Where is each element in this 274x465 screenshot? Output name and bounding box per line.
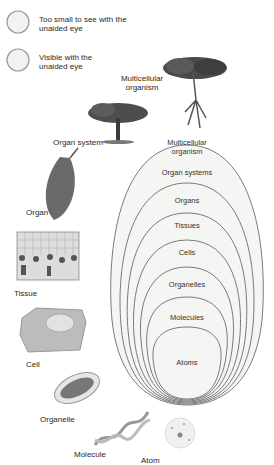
level-cells: Cells bbox=[147, 249, 227, 258]
atom-icon bbox=[165, 418, 195, 448]
tissue-icon bbox=[17, 232, 79, 280]
level-organs: Organs bbox=[147, 197, 227, 206]
label-organ-system: Organ system bbox=[53, 138, 103, 147]
legend-text-line1: Too small to see with the bbox=[39, 15, 127, 24]
label-organelle: Organelle bbox=[40, 415, 75, 424]
level-multicellular-organism: Multicellular organism bbox=[147, 139, 227, 156]
level-organelles: Organelles bbox=[147, 281, 227, 290]
label-multicellular-organism: Multicellular organism bbox=[112, 74, 172, 92]
label-tissue: Tissue bbox=[14, 289, 37, 298]
level-line: organism bbox=[147, 148, 227, 157]
label-molecule: Molecule bbox=[74, 450, 106, 459]
leaf-icon bbox=[46, 148, 78, 220]
tree-with-roots-icon bbox=[163, 57, 227, 128]
level-molecules: Molecules bbox=[147, 314, 227, 323]
mitochondrion-icon bbox=[50, 366, 104, 410]
label-cell: Cell bbox=[26, 360, 40, 369]
legend-visible: Visible with the unaided eye bbox=[39, 53, 92, 71]
label-line: organism bbox=[112, 83, 172, 92]
legend-too-small: Too small to see with the unaided eye bbox=[39, 15, 127, 33]
label-organ: Organ bbox=[26, 208, 48, 217]
dna-icon bbox=[95, 412, 150, 445]
legend-text-line2: unaided eye bbox=[39, 62, 92, 71]
level-organ-systems: Organ systems bbox=[147, 169, 227, 178]
level-tissues: Tissues bbox=[147, 222, 227, 231]
label-atom: Atom bbox=[141, 456, 160, 465]
cell-icon bbox=[20, 308, 86, 352]
legend-text-line1: Visible with the bbox=[39, 53, 92, 62]
level-atoms: Atoms bbox=[147, 359, 227, 368]
label-line: Multicellular bbox=[112, 74, 172, 83]
legend-text-line2: unaided eye bbox=[39, 24, 127, 33]
